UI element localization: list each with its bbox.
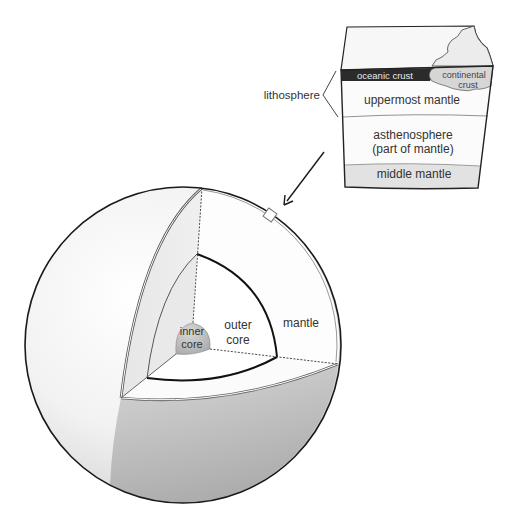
inner-core-label-1: inner <box>180 325 205 337</box>
lithosphere-bracket <box>323 71 338 117</box>
asthenosphere-label-1: asthenosphere <box>373 128 453 142</box>
asthenosphere-label-2: (part of mantle) <box>372 142 453 156</box>
outer-core-label-1: outer <box>224 318 251 332</box>
mantle-label: mantle <box>283 316 319 330</box>
crust-block: oceanic crust continental crust uppermos… <box>264 26 493 189</box>
earth-sphere: inner core outer core mantle <box>25 187 341 503</box>
zoom-arrow <box>284 152 324 205</box>
lithosphere-label: lithosphere <box>264 89 320 101</box>
middle-mantle-label: middle mantle <box>377 167 452 181</box>
outer-core-label-2: core <box>226 333 250 347</box>
continental-crust-label-1: continental <box>442 70 486 80</box>
uppermost-mantle-label: uppermost mantle <box>364 93 460 107</box>
earth-interior-diagram: inner core outer core mantle oceanic cru… <box>0 0 512 525</box>
continental-crust-label-2: crust <box>458 80 478 90</box>
inner-core-label-2: core <box>181 338 202 350</box>
oceanic-crust-label: oceanic crust <box>357 70 413 81</box>
